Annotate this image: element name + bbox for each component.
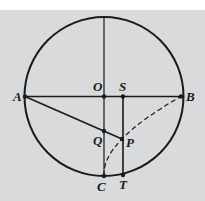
- segment-AP: [25, 97, 122, 140]
- label-A: A: [12, 89, 22, 104]
- point-S: [121, 94, 125, 98]
- point-C: [102, 174, 106, 178]
- label-T: T: [119, 177, 128, 192]
- label-S: S: [119, 79, 126, 94]
- label-B: B: [185, 89, 195, 104]
- label-O: O: [93, 79, 103, 94]
- label-P: P: [126, 135, 135, 150]
- point-B: [179, 94, 183, 98]
- point-Q: [102, 129, 106, 133]
- geometry-diagram: ABOSQPCT: [0, 0, 205, 201]
- label-C: C: [97, 179, 106, 194]
- point-P: [120, 137, 124, 141]
- point-O: [102, 94, 106, 98]
- label-Q: Q: [93, 133, 103, 148]
- point-A: [23, 94, 27, 98]
